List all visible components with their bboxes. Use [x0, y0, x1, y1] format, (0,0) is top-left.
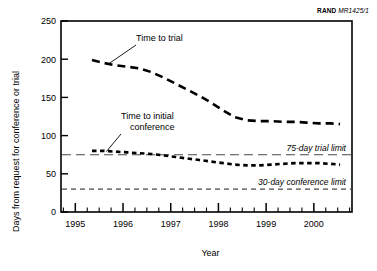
y-tick-label: 0 — [51, 207, 56, 217]
chart-canvas: 050100150200250 199519961997199819992000… — [0, 0, 377, 271]
annotation-time-to-trial: Time to trial — [136, 33, 183, 43]
y-tick-label: 50 — [46, 169, 56, 179]
y-tick-label: 150 — [41, 93, 56, 103]
annotation-time-to-initial-conference-line1: Time to initial — [121, 111, 174, 121]
y-tick-label: 200 — [41, 55, 56, 65]
x-tick-label: 1998 — [208, 219, 228, 229]
x-tick-label: 1997 — [161, 219, 181, 229]
reference-line-label: 75-day trial limit — [286, 143, 346, 153]
y-tick-label: 100 — [41, 131, 56, 141]
y-tick-label: 250 — [41, 16, 56, 26]
x-tick-label: 1995 — [65, 219, 85, 229]
x-tick-label: 1999 — [256, 219, 276, 229]
annotation-time-to-initial-conference-line2: conference — [130, 122, 175, 132]
reference-line-label: 30-day conference limit — [258, 177, 347, 187]
x-tick-label: 2000 — [304, 219, 324, 229]
x-tick-label: 1996 — [113, 219, 133, 229]
chart-figure: RAND MR1425/1 Days from request for conf… — [0, 0, 377, 271]
